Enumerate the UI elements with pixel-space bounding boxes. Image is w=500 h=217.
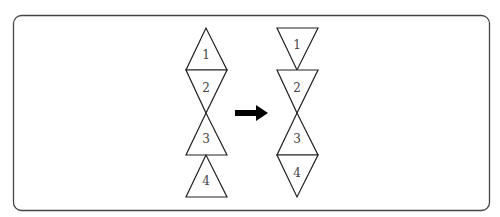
triangle-label: 4 (202, 174, 210, 188)
triangle-label: 4 (293, 166, 301, 180)
diagram-canvas: 1 2 3 4 1 2 3 4 (0, 0, 500, 217)
triangle-label: 2 (293, 81, 301, 95)
triangle-label: 3 (202, 132, 210, 146)
triangle-label: 1 (202, 48, 210, 62)
triangle-label: 2 (202, 81, 210, 95)
triangle-label: 1 (293, 38, 301, 52)
triangle-label: 3 (293, 132, 301, 146)
